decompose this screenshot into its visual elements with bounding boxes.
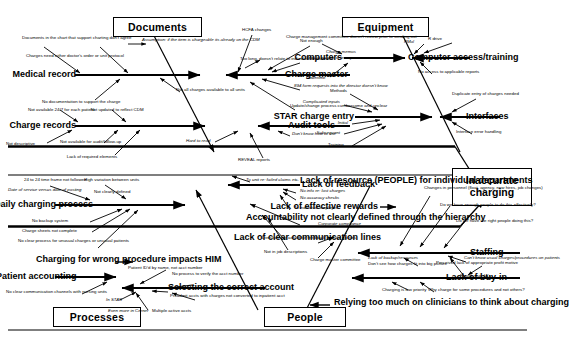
spine-note-failed-claims: To unit re: failed claims etc. — [246, 178, 304, 183]
cause-eq-ca-2: R drive — [428, 37, 454, 42]
cause-pe-st-1: Changes in personnel (float, agency, new… — [424, 186, 508, 191]
bone-label-computers[interactable]: Computers — [286, 53, 342, 62]
bone-label-computer-access-training[interactable]: Computer access/training — [408, 53, 524, 62]
cause-doc-cr-2: Not updated to reflect CDM — [90, 108, 144, 113]
category-box-documents[interactable]: Documents — [113, 17, 202, 37]
cause-pe-ac-2: Not in job descriptions — [264, 250, 320, 255]
cause-eq-cp-1: Not enough — [300, 39, 332, 44]
spine-note-assumption: Assumption: if the item is chargeable it… — [142, 38, 194, 43]
bone-label-selecting-correct-account[interactable]: Selecting the correct account — [168, 283, 296, 292]
cause-pr-sa-4: In STAR — [106, 298, 136, 303]
cause-doc-mr-3: No documentation to support the charge — [42, 100, 104, 105]
cause-eq-if-1: Duplicate entry of charges needed — [452, 92, 504, 97]
cause-pr-dc-3: Date of service versus date of posting — [8, 188, 54, 193]
cause-eq-ca-1: PMol — [404, 40, 422, 45]
cause-pr-sa-3: Preadmit accts with charges not converte… — [170, 294, 236, 299]
cause-doc-cm-7: Update/change process cumbersome and unc… — [290, 104, 356, 109]
bone-label-charge-records[interactable]: Charge records — [4, 121, 76, 130]
cause-doc-at-3: REVEAL reports — [238, 158, 282, 163]
cause-pr-pa-1: No clear communication channels with nur… — [6, 290, 78, 295]
category-label-equipment: Equipment — [357, 21, 413, 33]
cause-pe-bi-4: Why charge for some procedures and not o… — [428, 288, 494, 293]
category-box-people[interactable]: People — [264, 307, 346, 327]
cause-pe-st-6: Lack of backup/resources — [368, 256, 412, 261]
cause-pe-cc-1: Corporate compliance — [318, 222, 354, 227]
bone-label-lack-effective-rewards[interactable]: Lack of effective rewards — [268, 202, 378, 211]
bone-label-relying-too-much[interactable]: Relying too much on clinicians to think … — [334, 298, 494, 308]
cause-pe-lf-1: No info re: lost charges — [300, 189, 356, 194]
cause-eq-ca-3: No access to applicable reports — [418, 70, 466, 75]
cause-doc-cr-4: Not available for audit/follow-up — [60, 140, 114, 145]
cause-pr-dc-1: 24 to 24 time frame not followed — [24, 178, 76, 183]
bone-label-accountability[interactable]: Accountability not clearly defined throu… — [246, 213, 382, 223]
bone-label-patient-accounting[interactable]: Patient accounting — [0, 272, 54, 281]
cause-eq-cp-2: Downtime — [306, 76, 336, 81]
cause-pe-lf-2: No accuracy checks — [300, 196, 350, 201]
cause-eq-sc-1: Methods — [330, 89, 358, 94]
cause-pe-bi-1: Don't see how charges fit into big pictu… — [368, 262, 428, 267]
category-label-people: People — [287, 311, 323, 323]
bone-label-lack-of-buyin[interactable]: Lack of buy-in — [446, 273, 524, 282]
bone-label-lack-clear-communication[interactable]: Lack of clear communication lines — [234, 233, 330, 243]
bone-label-charging-wrong-procedure[interactable]: Charging for wrong procedure impacts HIM — [36, 255, 116, 265]
cause-eq-sc-4: Subsequent — [296, 131, 340, 136]
bone-label-daily-charging-process[interactable]: Daily charging process — [0, 200, 58, 209]
cause-doc-cr-1: Not available 24/7 for each patient — [28, 108, 86, 113]
cause-doc-mr-2: Charges need either doctor's order or un… — [26, 54, 96, 59]
cause-pe-cc-2: Charge master committee — [310, 258, 350, 263]
cause-pr-sa-6: Multiple active accts — [152, 309, 186, 314]
cause-eq-sc-5: Training — [328, 143, 358, 148]
cause-doc-cm-5: Too long, doesn't relate to individual d… — [240, 57, 284, 62]
cause-pe-bi-2: Perceived lack of appropriate profit mot… — [436, 261, 498, 266]
cause-pe-st-2: Do we have enough people to do this effe… — [440, 203, 504, 208]
cause-eq-sc-2: Complicated inputs — [296, 100, 340, 105]
cause-pr-dc-2: High variation between units — [84, 178, 122, 183]
cause-pr-sa-5: Even more in Cerner — [108, 309, 146, 314]
cause-pr-dc-6: Charge sheets not complete — [22, 229, 90, 234]
cause-pr-dc-7: No clear process for unusual charges or … — [18, 239, 96, 244]
cause-doc-at-2: Hard to read — [186, 139, 222, 144]
spine-note-not-all-charges: Not all charges available to all units — [176, 88, 222, 93]
cause-doc-cr-5: Lack of required elements — [58, 155, 126, 160]
cause-pr-dc-5: No backup system — [32, 219, 88, 224]
cause-pr-sa-2: No process to verify the acct number — [172, 272, 220, 277]
cause-pe-bi-3: Charging is low priority — [382, 288, 424, 293]
cause-doc-cm-6: 894 form requests into the director does… — [294, 84, 362, 89]
cause-doc-cm-1: HCFA changes — [242, 28, 288, 33]
bone-label-interfaces[interactable]: Interfaces — [466, 112, 524, 121]
bone-label-medical-record[interactable]: Medical record — [4, 70, 76, 79]
cause-pr-sa-1: Patient ID'd by name, not acct number — [128, 266, 168, 271]
bone-label-lack-of-resource-people[interactable]: Lack of resource (PEOPLE) for individual… — [300, 176, 426, 186]
cause-pr-dc-4: Not clearly defined — [94, 190, 124, 195]
cause-eq-sc-3: Initial — [310, 121, 348, 126]
cause-pe-st-3: Do we have the right people doing this? — [456, 219, 516, 224]
category-label-documents: Documents — [128, 21, 187, 33]
cause-eq-if-2: Interface error handling — [456, 130, 500, 135]
cause-doc-mr-1: Documents in the chart that support char… — [22, 36, 98, 41]
cause-doc-cr-3: Not descriptive — [6, 142, 50, 147]
